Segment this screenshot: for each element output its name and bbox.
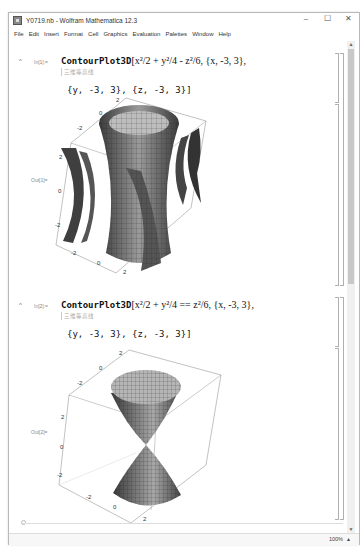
collapse-icon[interactable]: ^ xyxy=(19,58,22,64)
contour-plot-1[interactable]: 2 0 -2 2 0 -2 -2 0 2 xyxy=(31,93,231,278)
input-cell-bracket[interactable] xyxy=(335,53,339,103)
svg-text:2: 2 xyxy=(61,414,65,420)
scroll-up-icon[interactable]: ▲ xyxy=(347,41,355,48)
svg-text:2: 2 xyxy=(59,154,63,160)
function-name: ContourPlot3D xyxy=(61,56,131,66)
svg-text:0: 0 xyxy=(113,504,117,510)
expression: [x²/2 + y²/4 == z²/6, {x, -3, 3}, xyxy=(131,299,253,310)
menu-file[interactable]: File xyxy=(14,31,24,37)
close-button[interactable]: ✕ xyxy=(341,14,355,23)
menu-evaluation[interactable]: Evaluation xyxy=(132,31,160,37)
svg-text:-2: -2 xyxy=(71,250,77,256)
input-label: In[1]:= xyxy=(34,59,48,65)
svg-text:-2: -2 xyxy=(86,494,92,500)
tick-label: 2 xyxy=(116,97,120,103)
group-cell-bracket[interactable] xyxy=(340,297,344,520)
title-bar: Y0719.nb - Wolfram Mathematica 12.3 – ☐ … xyxy=(9,13,359,28)
menu-cell[interactable]: Cell xyxy=(88,31,98,37)
input-code-line2[interactable]: {y, -3, 3}, {z, -3, 3}] xyxy=(67,329,192,339)
cell-insertion-line[interactable] xyxy=(23,523,343,524)
input-code-line1[interactable]: ContourPlot3D[x²/2 + y²/4 - z²/6, {x, -3… xyxy=(61,55,246,66)
collapse-icon[interactable]: ^ xyxy=(19,302,22,308)
menu-palettes[interactable]: Palettes xyxy=(165,31,187,37)
menu-format[interactable]: Format xyxy=(64,31,83,37)
vertical-scrollbar[interactable]: ▲ ▼ xyxy=(347,41,355,533)
zoom-menu-icon[interactable]: ▲ xyxy=(346,536,351,542)
scroll-down-icon[interactable]: ▼ xyxy=(347,526,355,533)
menu-edit[interactable]: Edit xyxy=(29,31,39,37)
svg-text:-2: -2 xyxy=(55,222,61,228)
svg-text:0: 0 xyxy=(58,188,62,194)
input-cell-bracket[interactable] xyxy=(335,297,339,347)
input-code-line1[interactable]: ContourPlot3D[x²/2 + y²/4 == z²/6, {x, -… xyxy=(61,299,254,310)
window-title: Y0719.nb - Wolfram Mathematica 12.3 xyxy=(26,17,137,24)
menu-help[interactable]: Help xyxy=(218,31,230,37)
autocomplete-hint[interactable]: 三维等高线 xyxy=(61,68,94,76)
zoom-level[interactable]: 100% xyxy=(329,536,343,542)
svg-text:-2: -2 xyxy=(57,472,63,478)
group-cell-bracket[interactable] xyxy=(340,53,344,286)
svg-text:0: 0 xyxy=(97,260,101,266)
menu-bar: File Edit Insert Format Cell Graphics Ev… xyxy=(9,28,359,40)
maximize-button[interactable]: ☐ xyxy=(320,14,334,23)
menu-graphics[interactable]: Graphics xyxy=(103,31,127,37)
svg-text:-2: -2 xyxy=(77,380,83,386)
menu-window[interactable]: Window xyxy=(192,31,213,37)
mathematica-app-icon xyxy=(13,16,22,25)
svg-text:2: 2 xyxy=(123,269,127,275)
svg-text:-2: -2 xyxy=(77,125,83,131)
menu-insert[interactable]: Insert xyxy=(44,31,59,37)
scrollbar-thumb[interactable] xyxy=(348,49,354,284)
contour-plot-2[interactable]: 2 0 -2 2 0 -2 -2 0 2 xyxy=(31,345,231,525)
autocomplete-hint[interactable]: 三维等高线 xyxy=(61,312,94,320)
mathematica-window: Y0719.nb - Wolfram Mathematica 12.3 – ☐ … xyxy=(8,12,360,545)
input-label: In[2]:= xyxy=(34,303,48,309)
output-cell-bracket[interactable] xyxy=(335,104,339,286)
notebook-area[interactable]: ^ In[1]:= ContourPlot3D[x²/2 + y²/4 - z²… xyxy=(9,41,347,533)
status-bar: 100% ▲ xyxy=(9,533,359,545)
minimize-button[interactable]: – xyxy=(299,14,313,23)
output-cell-bracket[interactable] xyxy=(335,348,339,520)
svg-text:0: 0 xyxy=(99,110,103,116)
expression: [x²/2 + y²/4 - z²/6, {x, -3, 3}, xyxy=(131,55,246,66)
function-name: ContourPlot3D xyxy=(61,300,131,310)
svg-text:2: 2 xyxy=(143,516,147,522)
